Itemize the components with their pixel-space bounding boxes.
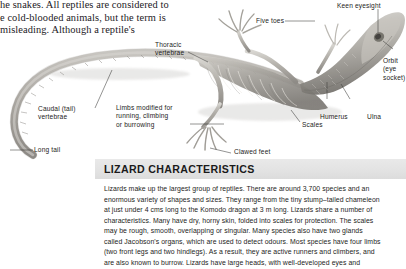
intro-line-1: he snakes. All reptiles are considered t… <box>0 0 182 12</box>
section-body-text: Lizards make up the largest group of rep… <box>104 184 400 268</box>
body-line-7: (two front legs and two hindlegs). As a … <box>104 247 400 258</box>
label-orbit-line-3: socket) <box>383 74 406 82</box>
label-caudal-line-1: Caudal (tail) <box>38 105 98 113</box>
label-caudal-line-2: vertebrae <box>38 113 98 121</box>
label-orbit-line-1: Orbit <box>383 57 406 65</box>
label-scales: Scales <box>302 121 323 129</box>
label-keen-eyesight-line-1: Keen eyesight <box>337 2 381 9</box>
label-ulna-line-1: Ulna <box>367 113 381 120</box>
label-caudal-tail-vertebrae: Caudal (tail) vertebrae <box>38 105 98 122</box>
label-thoracic-vertebrae-line-2: vertebrae <box>155 49 201 57</box>
label-limbs-modified: Limbs modified for running, climbing or … <box>116 104 188 129</box>
label-humerus-line-1: Humerus <box>320 113 348 120</box>
label-clawed-feet: Clawed feet <box>234 148 270 156</box>
body-line-1: Lizards make up the largest group of rep… <box>104 184 400 195</box>
label-keen-eyesight: Keen eyesight <box>337 2 381 10</box>
body-line-8: are also known to burrow. Lizards have l… <box>104 258 400 269</box>
label-clawed-feet-line-1: Clawed feet <box>234 148 270 155</box>
label-thoracic-vertebrae-line-1: Thoracic <box>155 41 201 49</box>
body-line-4: characteristics. Many have dry, horny sk… <box>104 216 400 227</box>
page-title: LIZARD CHARACTERISTICS <box>104 163 255 175</box>
label-limbs-line-1: Limbs modified for <box>116 104 188 112</box>
label-ulna: Ulna <box>367 113 381 121</box>
label-five-toes-line-1: Five toes <box>256 17 284 24</box>
intro-line-2: e cold-blooded animals, but the term is <box>0 12 182 25</box>
encyclopedia-page: legs), for the long animal, the lizard i… <box>0 0 406 269</box>
reptiles-intro-paragraph: legs), for the long animal, the lizard i… <box>0 0 182 37</box>
label-limbs-line-3: or burrowing <box>116 121 188 129</box>
intro-line-3: misleading. Although a reptile's <box>0 24 182 37</box>
label-orbit-line-2: (eye <box>383 65 406 73</box>
label-long-tail-line-1: Long tail <box>34 146 60 153</box>
label-limbs-line-2: running, climbing <box>116 112 188 120</box>
label-scales-line-1: Scales <box>302 121 323 128</box>
body-line-6: called Jacobson's organs, which are used… <box>104 237 400 248</box>
label-five-toes: Five toes <box>256 17 284 25</box>
body-line-2: enormous variety of shapes and sizes. Th… <box>104 195 400 206</box>
label-humerus: Humerus <box>320 113 348 121</box>
label-long-tail: Long tail <box>34 146 60 154</box>
label-orbit-eye-socket: Orbit (eye socket) <box>383 57 406 82</box>
label-thoracic-vertebrae: Thoracic vertebrae <box>155 41 201 58</box>
body-line-5: may be rough, smooth, overlapping or sin… <box>104 226 400 237</box>
body-line-3: at just under 4 cms long to the Komodo d… <box>104 205 400 216</box>
